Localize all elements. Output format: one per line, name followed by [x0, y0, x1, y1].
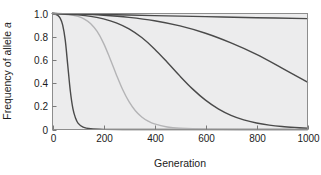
x-axis-tick-labels: 02004006008001000: [51, 133, 320, 144]
y-axis-label: Frequency of allele a: [1, 22, 13, 120]
x-tick-label: 800: [249, 133, 266, 144]
y-tick-label: 0.2: [34, 101, 48, 112]
y-tick-label: 0.6: [34, 55, 48, 66]
y-tick-label: 1.0: [34, 9, 48, 20]
x-tick-label: 600: [198, 133, 215, 144]
y-axis-tick-labels: 00.20.40.60.81.0: [34, 9, 48, 136]
x-axis-label: Generation: [154, 157, 206, 169]
plot-background: [53, 14, 308, 130]
y-tick-label: 0.4: [34, 78, 48, 89]
x-tick-label: 400: [147, 133, 164, 144]
y-tick-label: 0: [42, 125, 48, 136]
x-tick-label: 1000: [297, 133, 320, 144]
allele-frequency-chart: 02004006008001000 00.20.40.60.81.0 Gener…: [0, 0, 321, 175]
x-tick-label: 0: [51, 133, 57, 144]
x-tick-label: 200: [96, 133, 113, 144]
y-tick-label: 0.8: [34, 32, 48, 43]
